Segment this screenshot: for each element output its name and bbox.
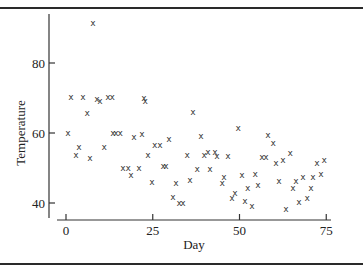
data-point-marker: x: [166, 134, 172, 144]
y-tick-label: 60: [32, 126, 45, 141]
data-point-marker: x: [270, 138, 276, 148]
data-point-marker: x: [97, 96, 103, 106]
data-point-marker: x: [65, 128, 71, 138]
data-point-marker: x: [84, 108, 90, 118]
data-point-marker: x: [273, 158, 279, 168]
data-point-marker: x: [318, 169, 324, 179]
data-point-marker: x: [221, 172, 227, 182]
x-tick-label: 25: [146, 223, 159, 238]
data-point-marker: x: [68, 92, 74, 102]
data-point-marker: x: [249, 201, 255, 211]
data-point-marker: x: [163, 161, 169, 171]
data-point-marker: x: [142, 96, 148, 106]
data-point-marker: x: [287, 148, 293, 158]
data-point-marker: x: [255, 180, 261, 190]
data-point-marker: x: [300, 172, 306, 182]
x-tick-label: 0: [63, 223, 70, 238]
data-point-marker: x: [184, 150, 190, 160]
data-point-marker: x: [232, 188, 238, 198]
data-point-marker: x: [187, 175, 193, 185]
y-axis-title: Temperature: [13, 100, 28, 166]
data-point-marker: x: [242, 196, 248, 206]
y-tick-label: 80: [32, 56, 45, 71]
data-point-marker: x: [252, 169, 258, 179]
data-point-marker: x: [87, 153, 93, 163]
x-axis-title: Day: [183, 237, 205, 252]
data-point-marker: x: [304, 193, 310, 203]
data-point-marker: x: [263, 152, 269, 162]
data-point-marker: x: [145, 150, 151, 160]
data-point-marker: x: [117, 128, 123, 138]
data-point-marker: x: [308, 183, 314, 193]
data-point-marker: x: [109, 92, 115, 102]
data-point-marker: x: [128, 170, 134, 180]
data-point-marker: x: [139, 129, 145, 139]
data-point-marker: x: [310, 172, 316, 182]
data-point-marker: x: [136, 163, 142, 173]
y-tick-label: 40: [32, 196, 45, 211]
data-point-marker: x: [214, 151, 220, 161]
data-point-marker: x: [276, 176, 282, 186]
data-point-marker: x: [149, 177, 155, 187]
data-points: xxxxxxxxxxxxxxxxxxxxxxxxxxxxxxxxxxxxxxxx…: [65, 18, 327, 214]
data-point-marker: x: [321, 155, 327, 165]
data-point-marker: x: [131, 132, 137, 142]
data-point-marker: x: [245, 183, 251, 193]
data-point-marker: x: [314, 158, 320, 168]
data-point-marker: x: [190, 107, 196, 117]
data-point-marker: x: [170, 192, 176, 202]
data-point-marker: x: [207, 164, 213, 174]
data-point-marker: x: [283, 204, 289, 214]
data-point-marker: x: [90, 18, 96, 28]
data-point-marker: x: [198, 131, 204, 141]
data-point-marker: x: [280, 155, 286, 165]
data-point-marker: x: [235, 123, 241, 133]
x-tick-label: 75: [320, 223, 333, 238]
x-tick-label: 50: [233, 223, 246, 238]
data-point-marker: x: [205, 147, 211, 157]
data-point-marker: x: [173, 178, 179, 188]
data-point-marker: x: [157, 140, 163, 150]
scatter-chart: 4060800255075 xxxxxxxxxxxxxxxxxxxxxxxxxx…: [0, 0, 363, 269]
data-point-marker: x: [239, 170, 245, 180]
data-point-marker: x: [296, 197, 302, 207]
data-point-marker: x: [80, 92, 86, 102]
data-point-marker: x: [73, 150, 79, 160]
data-point-marker: x: [194, 164, 200, 174]
data-point-marker: x: [225, 151, 231, 161]
data-point-marker: x: [101, 142, 107, 152]
data-point-marker: x: [290, 183, 296, 193]
data-point-marker: x: [180, 198, 186, 208]
